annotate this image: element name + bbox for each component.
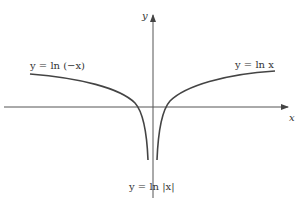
graph-canvas [0, 0, 299, 202]
right-curve-label: y = ln x [235, 59, 274, 70]
y-axis-label: y [142, 10, 148, 21]
curve-ln-neg-x [30, 74, 148, 160]
left-curve-label: y = ln (−x) [30, 60, 85, 71]
curve-ln-x [157, 71, 275, 160]
x-axis-label: x [289, 112, 295, 123]
bottom-curve-label: y = ln |x| [129, 181, 175, 192]
